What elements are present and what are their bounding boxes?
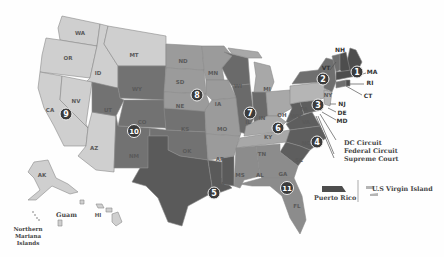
nmi-dot xyxy=(32,211,33,212)
callout-dc-circuit: DC Circuit xyxy=(344,139,382,147)
svg-text:5: 5 xyxy=(211,189,217,198)
label-ca: CA xyxy=(46,107,55,113)
label-puerto-rico: Puerto Rico xyxy=(314,194,356,202)
callout-supreme-court: Supreme Court xyxy=(344,155,399,163)
nmi-dot xyxy=(34,214,35,215)
label-ar: AR xyxy=(216,156,225,162)
label-wi: WI xyxy=(234,83,242,89)
label-ut: UT xyxy=(104,107,112,113)
callout-md: MD xyxy=(337,117,348,124)
label-fl: FL xyxy=(293,203,301,209)
label-ak: AK xyxy=(38,172,47,178)
callout-ma: MA xyxy=(367,68,378,75)
label-in: IN xyxy=(259,115,266,121)
callout-vt: VT xyxy=(322,64,332,71)
label-wa: WA xyxy=(75,30,86,36)
label-oh: OH xyxy=(277,112,287,118)
label-or: OR xyxy=(64,55,74,61)
svg-text:1: 1 xyxy=(354,68,360,77)
label-nm: NM xyxy=(129,153,139,159)
label-sc: SC xyxy=(295,157,303,163)
label-mi: MI xyxy=(263,86,271,92)
label-ga: GA xyxy=(279,171,289,177)
state-hi-big[interactable] xyxy=(112,212,122,226)
state-hi[interactable] xyxy=(80,200,84,204)
svg-text:2: 2 xyxy=(320,75,326,84)
badge-circuit-4[interactable]: 4 xyxy=(311,136,323,148)
label-nmi-2: Mariana xyxy=(15,233,42,239)
label-ia: IA xyxy=(215,101,222,107)
label-ny: NY xyxy=(324,92,334,98)
state-ct[interactable] xyxy=(336,80,346,88)
label-tx: TX xyxy=(176,178,185,184)
label-hi: HI xyxy=(95,212,102,218)
label-co: CO xyxy=(138,119,147,125)
label-wv: WV xyxy=(291,113,302,119)
puerto-rico-shape[interactable] xyxy=(322,186,346,192)
state-wy[interactable] xyxy=(118,66,166,100)
badge-circuit-3[interactable]: 3 xyxy=(312,99,324,111)
label-nc: NC xyxy=(302,140,311,146)
callout-de: DE xyxy=(337,109,346,116)
state-nd[interactable] xyxy=(166,44,204,70)
label-la: LA xyxy=(217,181,226,187)
badge-circuit-2[interactable]: 2 xyxy=(317,73,329,85)
badge-circuit-1[interactable]: 1 xyxy=(351,66,363,78)
usvi-shape-2[interactable] xyxy=(370,193,378,196)
svg-text:9: 9 xyxy=(63,110,69,119)
label-tn: TN xyxy=(258,151,267,157)
state-hi-3[interactable] xyxy=(106,208,112,212)
label-ok: OK xyxy=(183,148,193,154)
label-nmi-3: Islands xyxy=(17,240,40,246)
callout-federal-circuit: Federal Circuit xyxy=(344,147,398,155)
label-mo: MO xyxy=(217,126,227,132)
label-nv: NV xyxy=(72,98,82,104)
label-mn: MN xyxy=(208,70,218,76)
svg-text:6: 6 xyxy=(275,124,281,133)
label-sd: SD xyxy=(176,79,185,85)
label-usvi: U.S Virgin Island xyxy=(372,185,433,193)
label-al: AL xyxy=(256,172,264,178)
callout-ri: RI xyxy=(367,79,374,86)
callout-nh: NH xyxy=(335,46,345,53)
callout-ct: CT xyxy=(364,92,373,99)
label-guam: Guam xyxy=(56,211,77,219)
label-ne: NE xyxy=(176,103,185,109)
callout-nj: NJ xyxy=(338,100,345,108)
svg-text:3: 3 xyxy=(315,101,321,110)
badge-circuit-7[interactable]: 7 xyxy=(244,107,256,119)
label-pa: PA xyxy=(300,106,309,112)
label-az: AZ xyxy=(90,145,98,151)
badge-circuit-8[interactable]: 8 xyxy=(191,89,203,101)
badge-circuit-11[interactable]: 11 xyxy=(281,182,294,195)
label-ks: KS xyxy=(181,126,189,132)
label-ms: MS xyxy=(235,172,244,178)
nmi-dot xyxy=(36,217,37,218)
badge-circuit-5[interactable]: 5 xyxy=(208,187,220,199)
label-id: ID xyxy=(95,70,102,76)
svg-text:7: 7 xyxy=(247,109,253,118)
state-hi-2[interactable] xyxy=(96,204,104,208)
badge-circuit-9[interactable]: 9 xyxy=(60,108,72,120)
svg-text:8: 8 xyxy=(194,91,200,100)
badge-circuit-6[interactable]: 6 xyxy=(272,122,284,134)
state-ri[interactable] xyxy=(346,80,350,86)
guam-shape[interactable] xyxy=(58,220,62,226)
label-wy: WY xyxy=(132,86,143,92)
svg-text:4: 4 xyxy=(314,138,320,147)
label-mt: MT xyxy=(129,52,138,58)
label-ky: KY xyxy=(264,134,273,140)
us-circuit-map: WA OR ID MT CA NV AZ WY UT CO NM KS OK T… xyxy=(0,0,444,257)
label-il: IL xyxy=(245,119,251,125)
state-ak[interactable] xyxy=(28,160,78,200)
label-va: VA xyxy=(302,119,311,125)
label-nmi-1: Northern xyxy=(13,226,42,232)
svg-text:10: 10 xyxy=(129,128,139,136)
badge-circuit-10[interactable]: 10 xyxy=(128,125,141,138)
nmi-dot xyxy=(38,219,39,220)
label-nd: ND xyxy=(178,58,188,64)
svg-text:11: 11 xyxy=(282,185,292,193)
